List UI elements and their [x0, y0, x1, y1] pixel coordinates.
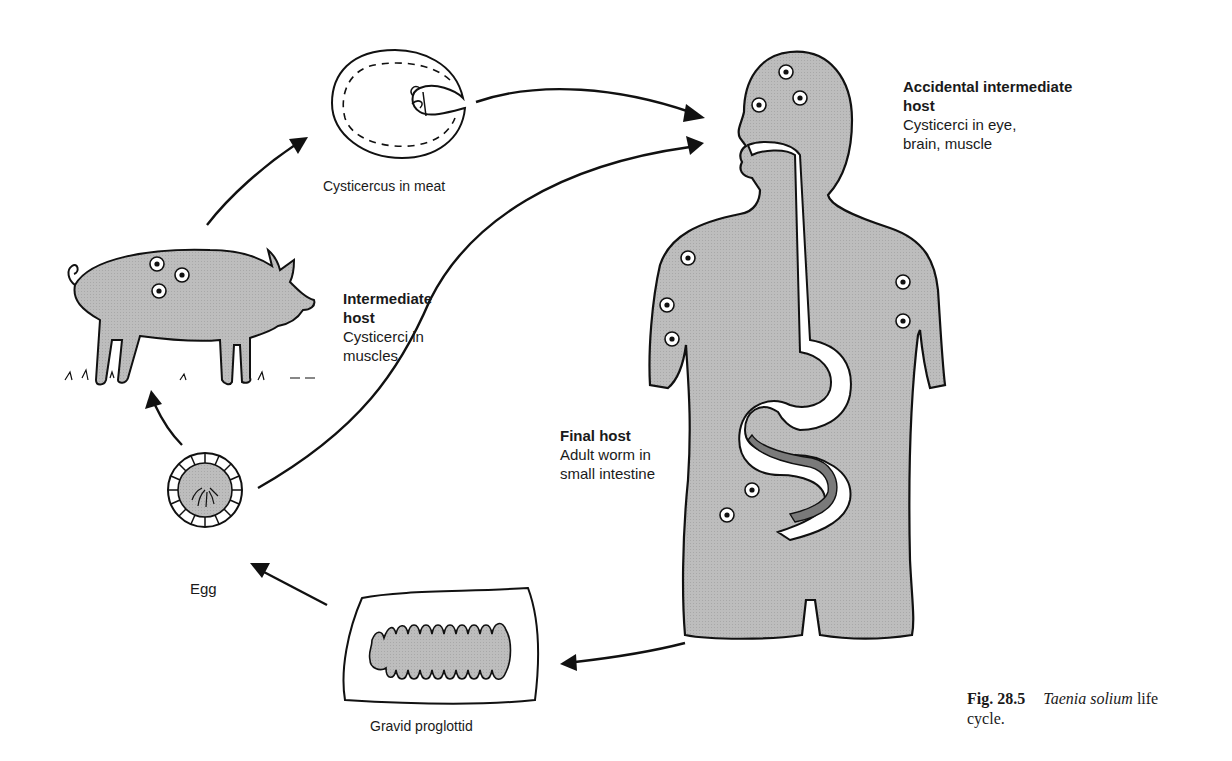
arrow-cysticercus-to-human [476, 89, 705, 122]
arrow-egg-to-pig [145, 390, 182, 445]
arrow-human-to-proglottid [560, 643, 685, 671]
final-host-desc-line2: small intestine [560, 464, 655, 483]
pig-label: Intermediate host Cysticerci in muscles [343, 289, 432, 365]
pig-illustration [65, 250, 315, 385]
pig-desc-line1: Cysticerci in [343, 327, 432, 346]
figure-number: Fig. 28.5 [967, 690, 1025, 707]
pig-heading-line1: Intermediate [343, 289, 432, 308]
pig-desc-line2: muscles [343, 346, 432, 365]
accidental-host-heading-line1: Accidental intermediate [903, 77, 1072, 96]
final-host-heading: Final host [560, 426, 655, 445]
final-host-label: Final host Adult worm in small intestine [560, 426, 655, 483]
egg-illustration [168, 453, 242, 527]
accidental-host-heading-line2: host [903, 96, 1072, 115]
accidental-host-label: Accidental intermediate host Cysticerci … [903, 77, 1072, 153]
final-host-desc-line1: Adult worm in [560, 445, 655, 464]
figure-title-line2: cycle. [967, 709, 1158, 729]
cysticercus-illustration [332, 50, 465, 158]
figure-title-rest: life [1133, 690, 1158, 707]
accidental-host-desc-line1: Cysticerci in eye, [903, 115, 1072, 134]
arrow-proglottid-to-egg [250, 563, 327, 605]
pig-heading-line2: host [343, 308, 432, 327]
proglottid-caption: Gravid proglottid [370, 718, 473, 734]
egg-caption: Egg [190, 580, 217, 597]
proglottid-illustration [344, 588, 539, 704]
figure-caption: Fig. 28.5Taenia solium life cycle. [967, 689, 1158, 729]
arrow-pig-to-cysticercus [207, 137, 308, 225]
figure-species: Taenia solium [1043, 690, 1133, 707]
cysticercus-caption: Cysticercus in meat [323, 178, 445, 194]
accidental-host-desc-line2: brain, muscle [903, 134, 1072, 153]
